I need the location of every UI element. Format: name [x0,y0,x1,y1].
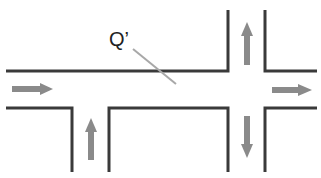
right-arrow-icon [12,83,53,95]
bottom-right-wall [265,108,317,172]
road-walls [6,10,317,172]
point-label: Q’ [109,29,129,49]
traffic-arrows [12,22,312,160]
bottom-left-wall [6,108,72,172]
down-arrow-icon [241,116,253,158]
up-arrow-icon [241,22,253,65]
top-right-wall [265,10,317,71]
bottom-middle-wall [109,108,228,172]
up-arrow-icon [85,118,97,160]
right-arrow-icon [272,84,312,96]
label-pointer-line [133,49,176,84]
road-diagram [0,0,321,178]
